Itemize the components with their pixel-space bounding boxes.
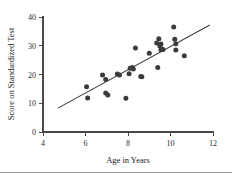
x-axis-title: Age in Years: [106, 155, 150, 165]
data-point: [123, 96, 128, 101]
x-axis-ticks: [43, 132, 213, 136]
y-axis-title: Score on Standardized Test: [6, 27, 16, 120]
data-point: [173, 48, 178, 53]
x-axis-tick-labels: 4 6 8 10 12: [41, 139, 217, 148]
y-tick-label: 20: [28, 71, 36, 80]
data-point: [117, 73, 122, 78]
data-point: [182, 53, 187, 58]
x-tick-label: 12: [209, 139, 217, 148]
data-point: [105, 92, 110, 97]
data-point: [131, 67, 136, 72]
data-point: [171, 25, 176, 30]
data-point: [172, 37, 177, 42]
plot-canvas: 40 30 20 10 0 4 6 8 10 12 Age in Years S…: [0, 0, 232, 175]
data-point: [139, 74, 144, 79]
data-point: [85, 96, 90, 101]
x-tick-label: 10: [167, 139, 175, 148]
x-tick-label: 4: [41, 139, 45, 148]
data-point: [173, 41, 178, 46]
x-tick-label: 6: [84, 139, 88, 148]
data-point: [147, 51, 152, 56]
data-point: [155, 65, 160, 70]
data-point: [127, 71, 132, 76]
data-point: [103, 77, 108, 82]
data-point: [158, 42, 163, 47]
data-points-group: [84, 25, 187, 101]
y-tick-label: 0: [32, 128, 36, 137]
y-tick-label: 10: [28, 99, 36, 108]
data-point: [156, 36, 161, 41]
data-point: [133, 46, 138, 51]
data-point: [84, 84, 89, 89]
y-tick-label: 40: [28, 13, 36, 22]
x-tick-label: 8: [126, 139, 130, 148]
scatter-plot-figure: 40 30 20 10 0 4 6 8 10 12 Age in Years S…: [0, 0, 232, 175]
y-axis-tick-labels: 40 30 20 10 0: [28, 13, 36, 137]
y-axis-ticks: [39, 17, 43, 132]
y-tick-label: 30: [28, 42, 36, 51]
data-point: [100, 73, 105, 78]
data-point: [161, 47, 166, 52]
